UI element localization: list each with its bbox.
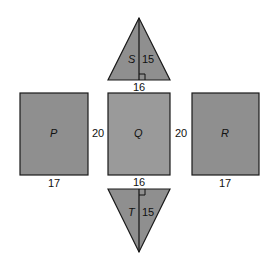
label-qr-side: 20 — [175, 127, 187, 139]
label-p-width: 17 — [48, 177, 60, 189]
label-s: S — [128, 53, 136, 65]
label-q: Q — [134, 127, 143, 139]
label-q-bottom: 16 — [133, 176, 145, 188]
label-s-height: 15 — [142, 53, 154, 65]
label-r: R — [221, 127, 229, 139]
label-r-width: 17 — [219, 177, 231, 189]
net-diagram: S 15 16 P 17 20 Q 16 20 R 17 T 15 — [0, 0, 272, 255]
label-s-base: 16 — [133, 81, 145, 93]
label-t-height: 15 — [142, 206, 154, 218]
label-pq-side: 20 — [92, 127, 104, 139]
label-p: P — [50, 127, 58, 139]
